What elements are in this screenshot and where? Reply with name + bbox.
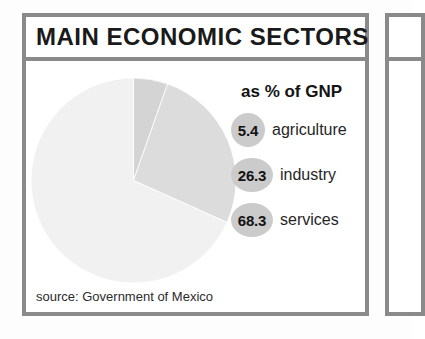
pie-chart-svg [30, 77, 237, 284]
legend-heading: as % of GNP [241, 83, 371, 100]
legend-item-agriculture: 5.4 agriculture [231, 112, 371, 148]
legend-value-bubble-services: 68.3 [231, 203, 273, 237]
adjacent-panel-title-divider [389, 57, 421, 61]
panel-body: as % of GNP 5.4 agriculture 26.3 industr… [26, 61, 365, 312]
pie-chart [30, 77, 237, 284]
legend-value-bubble-agriculture: 5.4 [231, 113, 265, 147]
legend-value-bubble-industry: 26.3 [231, 158, 273, 192]
legend-label-industry: industry [280, 166, 336, 184]
panel-title-bar: MAIN ECONOMIC SECTORS [26, 17, 365, 61]
main-economic-sectors-panel: MAIN ECONOMIC SECTORS as % of GNP 5.4 ag… [22, 13, 369, 316]
page-title: MAIN ECONOMIC SECTORS [36, 25, 369, 49]
source-attribution: source: Government of Mexico [36, 289, 213, 304]
legend-label-services: services [280, 211, 339, 229]
legend-item-services: 68.3 services [231, 202, 371, 238]
legend: as % of GNP 5.4 agriculture 26.3 industr… [231, 83, 371, 247]
adjacent-panel-partial [385, 13, 425, 316]
legend-item-industry: 26.3 industry [231, 157, 371, 193]
pie-slice-group [31, 78, 236, 283]
legend-label-agriculture: agriculture [272, 121, 347, 139]
